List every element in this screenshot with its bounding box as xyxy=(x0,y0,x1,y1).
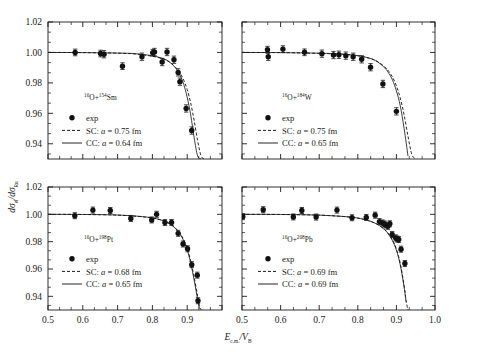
data-point xyxy=(152,49,157,54)
data-point xyxy=(350,54,355,59)
plot-frame xyxy=(242,187,435,310)
legend-marker-exp xyxy=(69,115,74,120)
legend-marker-exp xyxy=(69,256,74,261)
data-point xyxy=(162,220,167,225)
y-tick-label: 1.00 xyxy=(25,48,42,58)
x-tick-label: 0.5 xyxy=(42,315,54,325)
data-point xyxy=(195,272,200,277)
legend: expSC: a = 0.75 fmCC: a = 0.65 fm xyxy=(258,113,338,148)
data-point xyxy=(302,50,307,55)
legend-label-sc: SC: a = 0.69 fm xyxy=(282,267,338,277)
y-axis-title: dσel/dσRu xyxy=(7,181,19,213)
data-point xyxy=(72,213,77,218)
data-point xyxy=(402,261,407,266)
system-label: 16O+184W xyxy=(282,92,312,102)
legend-label-exp: exp xyxy=(86,113,98,123)
x-tick-label: 0.9 xyxy=(181,315,193,325)
data-point xyxy=(331,52,336,57)
x-tick-label: 0.8 xyxy=(146,315,158,325)
panel-top-right: 16O+184WexpSC: a = 0.75 fmCC: a = 0.65 f… xyxy=(242,22,435,159)
data-point xyxy=(90,207,95,212)
legend: expSC: a = 0.68 fmCC: a = 0.65 fm xyxy=(62,254,142,289)
data-point xyxy=(139,54,144,59)
data-point xyxy=(394,109,399,114)
data-point xyxy=(364,215,369,220)
legend-label-cc: CC: a = 0.65 fm xyxy=(86,279,142,289)
data-point xyxy=(120,63,125,68)
legend-marker-exp xyxy=(265,256,270,261)
data-point xyxy=(334,207,339,212)
legend-marker-exp xyxy=(265,115,270,120)
data-point xyxy=(175,231,180,236)
panel-top-left: 0.940.960.981.001.0216O+154SmexpSC: a = … xyxy=(25,17,222,159)
data-point xyxy=(154,212,159,217)
legend-label-sc: SC: a = 0.68 fm xyxy=(86,267,142,277)
data-point xyxy=(149,217,154,222)
data-point xyxy=(398,246,403,251)
data-point xyxy=(195,298,200,303)
y-tick-label: 0.98 xyxy=(25,78,42,88)
sc-curve xyxy=(48,214,201,310)
data-point xyxy=(169,220,174,225)
data-point xyxy=(189,262,194,267)
panel-bottom-left: 0.940.960.981.001.020.50.60.70.80.916O+1… xyxy=(25,182,222,325)
y-tick-label: 0.98 xyxy=(25,237,42,247)
data-point xyxy=(164,49,169,54)
data-point xyxy=(189,128,194,133)
legend: expSC: a = 0.69 fmCC: a = 0.69 fm xyxy=(258,254,338,289)
data-point xyxy=(261,207,266,212)
legend-label-sc: SC: a = 0.75 fm xyxy=(86,126,142,136)
x-tick-label: 0.8 xyxy=(352,315,364,325)
data-point xyxy=(171,57,176,62)
x-tick-label: 0.5 xyxy=(236,315,248,325)
x-tick-label: 0.7 xyxy=(112,315,124,325)
data-point xyxy=(359,57,364,62)
y-tick-label: 0.96 xyxy=(25,264,42,274)
legend-label-exp: exp xyxy=(282,254,294,264)
legend-label-exp: exp xyxy=(86,254,98,264)
x-tick-label: 0.6 xyxy=(77,315,89,325)
panel-bottom-right: 0.50.60.70.80.91.016O+208PbexpSC: a = 0.… xyxy=(236,187,441,325)
data-point xyxy=(108,208,113,213)
figure-container: 0.940.960.981.001.0216O+154SmexpSC: a = … xyxy=(0,0,477,356)
data-point xyxy=(175,70,180,75)
data-point xyxy=(180,241,185,246)
legend-label-sc: SC: a = 0.75 fm xyxy=(282,126,338,136)
x-tick-label: 1.0 xyxy=(429,315,441,325)
data-point xyxy=(368,65,373,70)
legend-label-cc: CC: a = 0.65 fm xyxy=(282,138,338,148)
data-point xyxy=(372,212,377,217)
exp-data-series xyxy=(265,46,399,115)
data-point xyxy=(343,53,348,58)
legend-label-cc: CC: a = 0.64 fm xyxy=(86,138,142,148)
data-point xyxy=(387,221,392,226)
data-point xyxy=(183,106,188,111)
data-point xyxy=(319,51,324,56)
x-tick-label: 0.9 xyxy=(390,315,402,325)
data-point xyxy=(380,81,385,86)
plot-frame xyxy=(242,22,435,159)
legend-label-exp: exp xyxy=(282,113,294,123)
x-axis-title: Ec.m./VB xyxy=(224,332,252,344)
data-point xyxy=(185,246,190,251)
plot-area xyxy=(240,207,408,310)
system-label: 16O+198Pt xyxy=(84,234,114,244)
data-point xyxy=(280,46,285,51)
data-point xyxy=(265,47,270,52)
x-tick-label: 0.7 xyxy=(313,315,325,325)
y-tick-label: 0.94 xyxy=(25,139,42,149)
y-tick-label: 1.02 xyxy=(25,17,42,27)
four-panel-elastic-scattering-figure: 0.940.960.981.001.0216O+154SmexpSC: a = … xyxy=(0,0,477,356)
data-point xyxy=(336,52,341,57)
legend: expSC: a = 0.75 fmCC: a = 0.64 fm xyxy=(62,113,142,148)
data-point xyxy=(159,59,164,64)
data-point xyxy=(240,214,245,219)
data-point xyxy=(266,54,271,59)
data-point xyxy=(396,237,401,242)
data-point xyxy=(349,215,354,220)
x-tick-label: 0.6 xyxy=(275,315,287,325)
data-point xyxy=(291,214,296,219)
y-tick-label: 1.00 xyxy=(25,210,42,220)
data-point xyxy=(72,50,77,55)
data-point xyxy=(177,79,182,84)
